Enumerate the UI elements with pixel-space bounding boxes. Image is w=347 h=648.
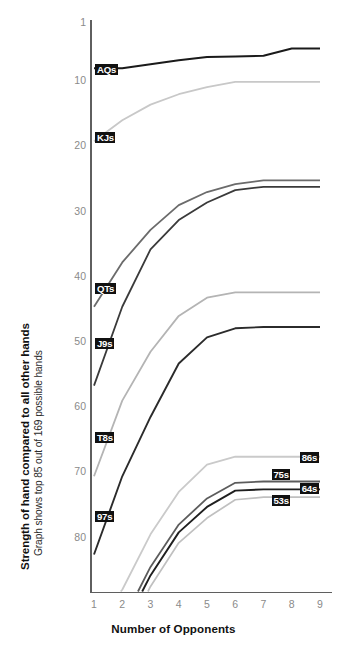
y-tick-label: 10 <box>56 74 86 86</box>
series-label-86s: 86s <box>300 452 318 463</box>
x-tick-label: 4 <box>169 598 189 610</box>
x-tick-label: 8 <box>282 598 302 610</box>
series-line-97s <box>94 327 320 555</box>
y-tick-label: 1 <box>56 16 86 28</box>
y-tick-text: 40 <box>60 270 86 282</box>
series-line-QTs <box>94 180 320 306</box>
y-tick-text: 30 <box>60 205 86 217</box>
series-line-AQs <box>94 49 320 69</box>
y-tick-text: 1 <box>60 16 86 28</box>
series-line-KJs <box>94 82 320 141</box>
y-tick-label: 60 <box>56 400 86 412</box>
x-tick-label: 2 <box>112 598 132 610</box>
x-tick-label: 5 <box>197 598 217 610</box>
x-tick-label: 7 <box>254 598 274 610</box>
series-label-64s: 64s <box>300 483 318 494</box>
y-tick-text: 70 <box>60 465 86 477</box>
y-tick-label: 80 <box>56 531 86 543</box>
series-label-75s: 75s <box>272 469 290 480</box>
y-tick-text: 80 <box>60 531 86 543</box>
y-tick-text: 10 <box>60 74 86 86</box>
y-tick-label: 70 <box>56 465 86 477</box>
series-label-AQs: AQs <box>95 64 117 75</box>
series-label-QTs: QTs <box>95 283 115 294</box>
series-line-T8s <box>94 292 320 476</box>
series-label-KJs: KJs <box>95 132 115 143</box>
x-axis-title: Number of Opponents <box>0 622 347 635</box>
y-tick-text: 20 <box>60 139 86 151</box>
plot-area: 11020304050607080 123456789 AQsKJsQTsJ9s… <box>0 0 347 648</box>
x-tick-label: 3 <box>141 598 161 610</box>
y-tick-label: 20 <box>56 139 86 151</box>
series-line-J9s <box>94 187 320 386</box>
y-tick-label: 50 <box>56 335 86 347</box>
series-label-97s: 97s <box>95 511 113 522</box>
x-tick-label: 6 <box>225 598 245 610</box>
y-tick-text: 50 <box>60 335 86 347</box>
series-lines-svg <box>0 0 347 648</box>
x-tick-label: 1 <box>84 598 104 610</box>
series-line-53s <box>148 497 320 591</box>
y-tick-label: 40 <box>56 270 86 282</box>
series-label-T8s: T8s <box>95 432 114 443</box>
series-label-J9s: J9s <box>95 338 113 349</box>
y-tick-label: 30 <box>56 205 86 217</box>
series-label-53s: 53s <box>272 495 290 506</box>
x-tick-label: 9 <box>310 598 330 610</box>
y-tick-text: 60 <box>60 400 86 412</box>
chart-container: Strength of hand compared to all other h… <box>0 0 347 648</box>
